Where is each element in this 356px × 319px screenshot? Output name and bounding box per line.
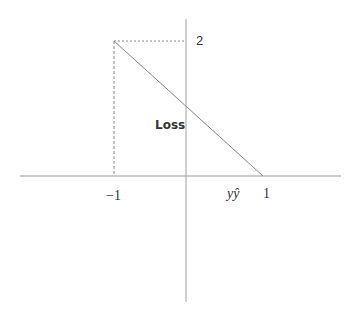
y-tick-label-2: 2 (196, 34, 203, 47)
x-axis-label: yŷ (227, 187, 239, 201)
x-tick-label-neg1: −1 (106, 189, 121, 203)
x-tick-label-1: 1 (263, 187, 270, 201)
hinge-loss-diagram (0, 0, 356, 319)
loss-label: Loss (155, 119, 185, 131)
loss-line (114, 41, 263, 176)
